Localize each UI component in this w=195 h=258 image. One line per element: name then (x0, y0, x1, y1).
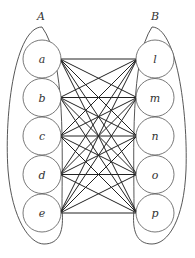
node-label-c: c (39, 130, 45, 143)
set-label-a: A (36, 10, 45, 23)
node-label-l: l (153, 53, 157, 66)
set-label-b: B (150, 10, 159, 23)
node-label-b: b (38, 92, 45, 105)
node-label-e: e (39, 207, 46, 220)
node-label-n: n (151, 130, 158, 143)
node-label-o: o (152, 169, 159, 182)
node-label-d: d (38, 169, 45, 182)
node-label-a: a (39, 53, 46, 66)
node-label-p: p (151, 207, 158, 220)
edges-group (60, 59, 137, 213)
node-label-m: m (150, 92, 160, 105)
bipartite-graph-diagram: abcdelmnop A B (0, 0, 195, 258)
